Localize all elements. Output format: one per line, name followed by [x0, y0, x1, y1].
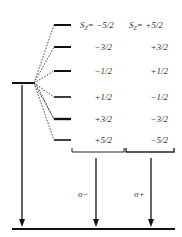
level-5-right: −3/2	[150, 114, 168, 124]
transition-label-sigma-minus: σ−	[78, 189, 89, 199]
level-5-left: +3/2	[94, 114, 112, 124]
level-3-left: −1/2	[94, 66, 112, 76]
arrow-head-sigma-minus	[93, 219, 99, 227]
level-2-left: −3/2	[94, 42, 112, 52]
bracket-right	[126, 148, 174, 152]
header-left: SZ= −5/2	[80, 20, 114, 31]
header-right: SZ= +5/2	[129, 20, 163, 31]
level-6-left: +5/2	[94, 135, 112, 145]
level-2-right: +3/2	[150, 42, 168, 52]
energy-level-diagram: SZ= −5/2 SZ= +5/2 −3/2 +3/2 −1/2 +1/2 +1…	[0, 0, 182, 237]
split-levels	[54, 25, 71, 140]
arrow-head-sigma-plus	[148, 219, 154, 227]
level-labels: −3/2 +3/2 −1/2 +1/2 +1/2 −1/2 +3/2 −3/2 …	[94, 42, 168, 145]
level-4-left: +1/2	[94, 92, 112, 102]
brackets	[72, 148, 174, 152]
arrows	[19, 85, 154, 227]
level-3-right: +1/2	[150, 66, 168, 76]
transition-label-sigma-plus: σ+	[134, 189, 145, 199]
level-6-right: −5/2	[150, 135, 168, 145]
splitting-lines	[34, 25, 54, 140]
bracket-left	[72, 148, 124, 152]
arrow-head-main	[19, 219, 25, 227]
level-4-right: −1/2	[150, 92, 168, 102]
